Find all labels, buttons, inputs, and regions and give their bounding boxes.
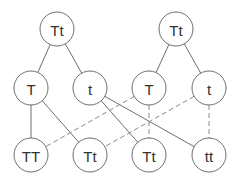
edge-p1-g1	[38, 45, 50, 73]
node-label: T	[26, 81, 35, 98]
node-o3: Tt	[132, 138, 166, 172]
node-g4: t	[192, 71, 226, 105]
node-label: tt	[205, 148, 214, 165]
node-o4: tt	[192, 138, 226, 172]
edge-p1-g2	[65, 44, 81, 73]
nodes-layer: TtTtTtTtTTTtTttt	[14, 12, 226, 172]
node-p2: Tt	[159, 12, 193, 46]
node-label: TT	[22, 148, 40, 165]
edge-g2-o3	[101, 101, 138, 142]
edges-layer	[31, 44, 209, 147]
node-g2: t	[73, 71, 107, 105]
punnett-cross-diagram: TtTtTtTtTTTtTttt	[0, 0, 240, 183]
node-label: Tt	[83, 148, 97, 165]
edge-p2-g3	[156, 44, 169, 72]
node-o1: TT	[14, 138, 48, 172]
node-label: Tt	[169, 22, 183, 39]
node-g1: T	[14, 71, 48, 105]
edge-p2-g4	[184, 44, 200, 73]
node-label: Tt	[50, 22, 64, 39]
node-label: Tt	[142, 148, 156, 165]
node-o2: Tt	[73, 138, 107, 172]
node-g3: T	[132, 71, 166, 105]
edge-g1-o2	[42, 101, 79, 142]
node-label: T	[144, 81, 153, 98]
node-p1: Tt	[40, 12, 74, 46]
